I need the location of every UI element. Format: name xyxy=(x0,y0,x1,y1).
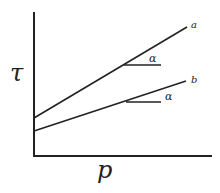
line-b xyxy=(34,81,186,131)
line-a xyxy=(34,27,187,118)
y-axis-label: τ xyxy=(10,59,24,87)
shear-stress-diagram: τ p a b α α xyxy=(0,0,220,193)
x-axis-label: p xyxy=(97,156,112,184)
angle-alpha-label-a: α xyxy=(149,52,157,65)
line-b-label: b xyxy=(191,74,197,85)
angle-alpha-label-b: α xyxy=(165,90,173,103)
line-a-label: a xyxy=(191,19,197,30)
